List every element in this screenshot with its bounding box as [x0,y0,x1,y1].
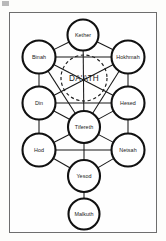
sephirah-label-malkuth: Malkuth [74,211,93,217]
path-tifereth-hod [53,134,70,143]
path-netsah-yesod [97,158,114,168]
sephirah-label-din: Din [35,100,43,106]
sephirah-label-hokhmah: Hokhmah [116,54,139,60]
sephirah-label-kether: Kether [75,32,91,38]
sephirah-label-tifereth: Tifereth [75,124,93,130]
sephirah-hod[interactable]: Hod [23,134,56,167]
sephirah-tifereth[interactable]: Tifereth [68,111,100,143]
sephirah-label-hod: Hod [34,147,44,153]
sephirah-binah[interactable]: Binah [23,41,56,74]
sephiroth-group: KetherBinahHokhmahDinHesedTiferethHodNet… [23,20,145,230]
path-hod-yesod [53,158,71,168]
sephirah-netsah[interactable]: Netsah [112,134,145,167]
sephirah-label-binah: Binah [32,54,46,60]
sephirah-label-hesed: Hesed [120,100,136,106]
sephirah-label-netsah: Netsah [119,147,136,153]
path-tifereth-netsah [98,134,114,143]
daath-label: DA'ATH [69,74,99,83]
sephirah-malkuth[interactable]: Malkuth [69,199,100,230]
tree-of-life-diagram: DA'ATH KetherBinahHokhmahDinHesedTiferet… [0,0,166,241]
path-kether-binah [53,42,69,50]
sephirah-hesed[interactable]: Hesed [112,87,145,120]
sephirah-din[interactable]: Din [23,87,56,120]
sephirah-hokhmah[interactable]: Hokhmah [112,41,145,74]
diagram-page: DA'ATH KetherBinahHokhmahDinHesedTiferet… [0,0,166,241]
sephirah-kether[interactable]: Kether [68,20,99,51]
sephirah-yesod[interactable]: Yesod [68,160,100,192]
path-din-tifereth [53,110,70,119]
path-hesed-tifereth [98,111,115,120]
sephirah-label-yesod: Yesod [76,173,91,179]
path-kether-hokhmah [96,42,113,50]
